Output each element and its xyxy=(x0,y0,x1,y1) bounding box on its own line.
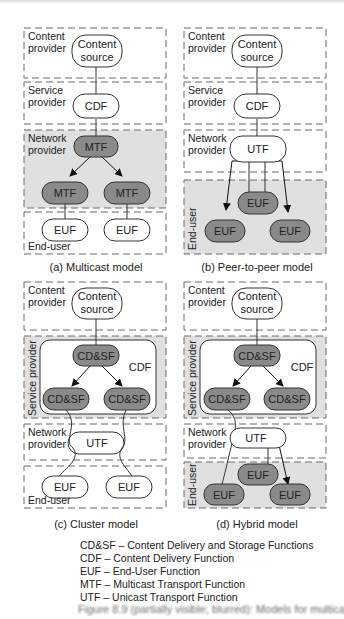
layer-label: End-user xyxy=(186,207,198,250)
panel-caption: (a) Multicast model xyxy=(50,261,143,273)
node-label: source xyxy=(80,303,113,315)
node-label: Content xyxy=(238,290,277,302)
legend-item: CDF – Content Delivery Function xyxy=(80,552,313,565)
layer-label: Network xyxy=(188,132,227,144)
node-label: EUF xyxy=(279,489,301,501)
node-label: CD&SF xyxy=(77,350,115,362)
node-label: CD&SF xyxy=(208,393,246,405)
node-label: UTF xyxy=(245,432,267,444)
node-label: CDF xyxy=(129,361,152,373)
node-label: CD&SF xyxy=(108,393,146,405)
node-label: CDF xyxy=(246,100,269,112)
layer-label: Service provider xyxy=(186,340,198,416)
node-label: EUF xyxy=(213,489,235,501)
panel-c-cluster-model: Content provider Service provider Networ… xyxy=(24,282,166,530)
node-label: EUF xyxy=(247,469,269,481)
panel-b-peer-to-peer-model: Content provider Service provider Networ… xyxy=(184,28,326,273)
node-label: UTF xyxy=(86,437,108,449)
layer-label: provider xyxy=(188,96,226,108)
panel-d-hybrid-model: Content provider Service provider Networ… xyxy=(184,282,326,530)
layer-label: provider xyxy=(28,42,66,54)
panel-caption: (b) Peer-to-peer model xyxy=(201,261,312,273)
panel-a-multicast-model: Content provider Service provider Networ… xyxy=(24,28,166,273)
layer-label: Content xyxy=(188,30,225,42)
node-label: MTF xyxy=(85,141,108,153)
layer-label: Network xyxy=(28,132,67,144)
node-label: CD&SF xyxy=(47,393,85,405)
layer-label: Service xyxy=(28,84,63,96)
abbreviation-legend: CD&SF – Content Delivery and Storage Fun… xyxy=(80,539,313,604)
node-label: EUF xyxy=(118,481,140,493)
layer-label: End-user xyxy=(28,240,71,252)
layer-label: provider xyxy=(188,42,226,54)
layer-label: Service xyxy=(188,84,223,96)
node-label: EUF xyxy=(54,224,76,236)
node-label: source xyxy=(240,51,273,63)
node-label: EUF xyxy=(279,225,301,237)
node-label: Content xyxy=(78,290,117,302)
iptv-models-diagram: Content provider Service provider Networ… xyxy=(0,0,344,600)
layer-label: provider xyxy=(188,144,226,156)
node-label: UTF xyxy=(247,143,269,155)
node-label: CD&SF xyxy=(238,350,276,362)
node-label: CDF xyxy=(85,100,108,112)
figure-caption: Figure 8.9 (partially visible, blurred):… xyxy=(78,603,344,615)
legend-item: EUF – End-User Function xyxy=(80,565,313,578)
layer-label: Network xyxy=(188,426,227,438)
layer-label: Service provider xyxy=(26,340,38,416)
node-label: MTF xyxy=(54,187,77,199)
node-label: EUF xyxy=(247,197,269,209)
layer-label: provider xyxy=(28,438,66,450)
node-label: source xyxy=(240,303,273,315)
node-label: EUF xyxy=(54,481,76,493)
layer-label: provider xyxy=(28,96,66,108)
layer-label: Content xyxy=(28,30,65,42)
layer-label: provider xyxy=(188,438,226,450)
node-label: CDF xyxy=(291,361,314,373)
node-label: MTF xyxy=(116,187,139,199)
layer-label: Content xyxy=(28,284,65,296)
layer-label: Network xyxy=(28,426,67,438)
layer-label: End-user xyxy=(186,463,198,506)
legend-item: MTF – Multicast Transport Function xyxy=(80,578,313,591)
layer-label: provider xyxy=(188,296,226,308)
node-label: EUF xyxy=(214,225,236,237)
layer-label: provider xyxy=(28,296,66,308)
node-label: CD&SF xyxy=(268,393,306,405)
legend-item: CD&SF – Content Delivery and Storage Fun… xyxy=(80,539,313,552)
node-label: Content xyxy=(238,38,277,50)
end-user-region xyxy=(184,180,326,254)
panel-caption: (d) Hybrid model xyxy=(216,518,297,530)
node-label: source xyxy=(80,51,113,63)
layer-label: Content xyxy=(188,284,225,296)
node-label: Content xyxy=(78,38,117,50)
node-label: EUF xyxy=(116,224,138,236)
panel-caption: (c) Cluster model xyxy=(54,518,138,530)
layer-label: provider xyxy=(28,144,66,156)
